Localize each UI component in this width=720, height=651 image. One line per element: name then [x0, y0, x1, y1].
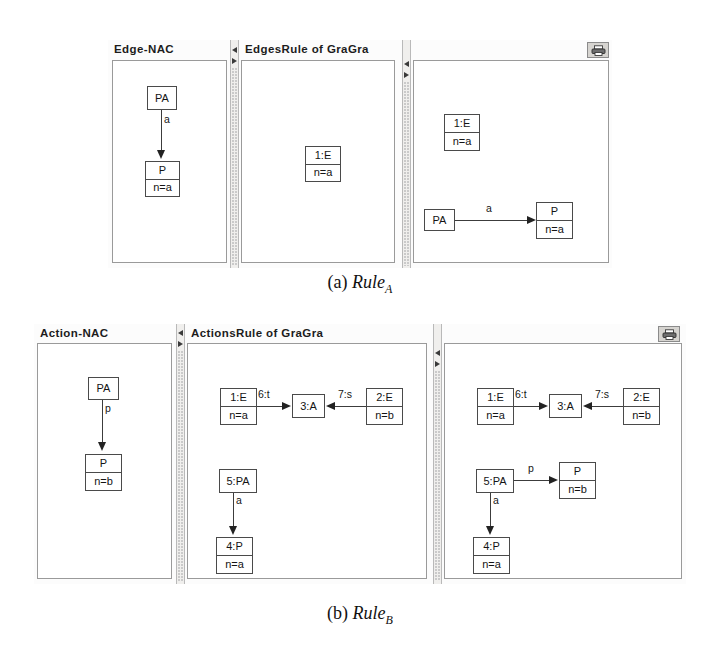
arrowhead-right-icon — [539, 402, 548, 410]
canvas-actions-rule-lhs[interactable]: 1:E n=a 6:t 3:A 7:s 2:E n=b — [187, 343, 427, 579]
edge-label-6t: 6:t — [515, 388, 527, 400]
node-label-line1: P — [560, 463, 595, 481]
node-label-line2: n=b — [367, 407, 402, 424]
node-4-p[interactable]: 4:P n=a — [216, 537, 253, 574]
divider-arrow-right-icon[interactable] — [178, 341, 183, 347]
node-3-a[interactable]: 3:A — [292, 394, 325, 418]
arrowhead-right-icon — [549, 476, 558, 484]
edge-e2-to-a3 — [591, 406, 624, 407]
node-3-a[interactable]: 3:A — [549, 394, 582, 418]
divider-texture — [435, 371, 441, 581]
edge-label-a: a — [493, 494, 499, 506]
edge-pa5-to-pnb — [514, 480, 553, 481]
arrowhead-right-icon — [282, 402, 291, 410]
node-label-line1: 2:E — [624, 389, 659, 407]
divider-texture — [178, 351, 184, 581]
edge-label-7s: 7:s — [338, 388, 352, 400]
node-pa[interactable]: PA — [88, 377, 119, 400]
node-5-pa[interactable]: 5:PA — [219, 469, 257, 493]
canvas-action-nac[interactable]: PA p P n=b — [37, 343, 172, 579]
edge-label-a: a — [236, 494, 242, 506]
node-label: 3:A — [293, 395, 324, 417]
node-label-line2: n=a — [474, 556, 509, 573]
pane-title-actions-rule: ActionsRule of GraGra — [185, 324, 439, 343]
caption-name: Rule — [353, 603, 386, 623]
node-label-line1: 4:P — [217, 538, 252, 556]
node-1-e[interactable]: 1:E n=a — [220, 388, 257, 425]
pane-action-nac: Action-NAC PA p P n=b — [34, 324, 176, 584]
pane-actions-rule-lhs: ActionsRule of GraGra 1:E n=a 6:t 3:A 7:… — [185, 324, 433, 584]
node-p-nb[interactable]: P n=b — [85, 454, 122, 491]
edge-label-6t: 6:t — [258, 388, 270, 400]
printer-icon — [662, 329, 677, 340]
edge-label-7s: 7:s — [595, 388, 609, 400]
figure-rule-b: Action-NAC PA p P n=b ActionsRul — [0, 0, 720, 651]
split-divider-2[interactable] — [433, 324, 442, 584]
node-1-e[interactable]: 1:E n=a — [477, 388, 514, 425]
arrowhead-left-icon — [583, 402, 592, 410]
node-2-e[interactable]: 2:E n=b — [623, 388, 660, 425]
node-label-line1: 1:E — [478, 389, 513, 407]
node-label-line1: 4:P — [474, 538, 509, 556]
node-label-line1: P — [86, 455, 121, 473]
node-label: 5:PA — [220, 470, 256, 492]
divider-arrow-right-icon[interactable] — [435, 361, 440, 367]
divider-arrow-left-icon[interactable] — [435, 350, 440, 356]
arrowhead-down-icon — [229, 526, 237, 535]
node-5-pa[interactable]: 5:PA — [476, 469, 514, 493]
printer-button[interactable] — [658, 326, 680, 342]
node-label-line2: n=a — [217, 556, 252, 573]
node-label: PA — [89, 378, 118, 399]
arrowhead-down-icon — [486, 526, 494, 535]
node-label-line2: n=b — [86, 473, 121, 490]
node-label: 5:PA — [477, 470, 513, 492]
node-label-line1: 2:E — [367, 389, 402, 407]
edge-label-p: p — [528, 462, 534, 474]
node-label-line2: n=b — [560, 481, 595, 498]
node-label-line2: n=a — [478, 407, 513, 424]
arrowhead-down-icon — [98, 442, 106, 451]
node-p-nb[interactable]: P n=b — [559, 462, 596, 499]
node-2-e[interactable]: 2:E n=b — [366, 388, 403, 425]
node-label-line2: n=a — [221, 407, 256, 424]
caption-subscript: B — [386, 613, 393, 627]
canvas-actions-rule-rhs[interactable]: 1:E n=a 6:t 3:A 7:s 2:E n=b — [444, 343, 682, 579]
edge-e2-to-a3 — [334, 406, 367, 407]
pane-actions-rule-rhs: 1:E n=a 6:t 3:A 7:s 2:E n=b — [442, 324, 686, 584]
pane-title-actions-rule-rhs — [442, 324, 648, 343]
divider-arrow-left-icon[interactable] — [178, 330, 183, 336]
edge-label-p: p — [105, 402, 111, 414]
node-label-line2: n=b — [624, 407, 659, 424]
node-4-p[interactable]: 4:P n=a — [473, 537, 510, 574]
caption-prefix: (b) — [327, 603, 348, 623]
editor-window-actions-rule: Action-NAC PA p P n=b ActionsRul — [34, 324, 686, 584]
edge-pa-to-p — [102, 400, 103, 448]
split-divider-1[interactable] — [176, 324, 185, 584]
pane-title-action-nac: Action-NAC — [34, 324, 182, 343]
caption-rule-b: (b) RuleB — [0, 603, 720, 628]
node-label: 3:A — [550, 395, 581, 417]
node-label-line1: 1:E — [221, 389, 256, 407]
arrowhead-left-icon — [326, 402, 335, 410]
